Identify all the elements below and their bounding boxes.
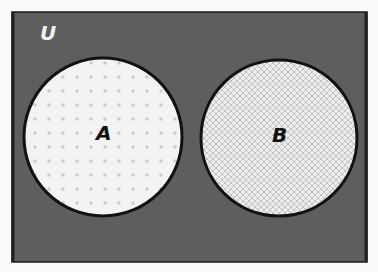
universe-label: U [40,21,56,45]
venn-diagram: U A B [0,0,378,272]
set-a-label: A [94,121,111,145]
set-b-label: B [272,123,287,147]
